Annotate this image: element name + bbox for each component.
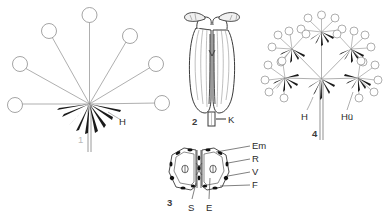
fig4-involucel-lower-left [273, 74, 299, 92]
fig4-umbellet-lower-right [344, 57, 382, 102]
fig1-flower-head [149, 57, 164, 72]
fig2-number: 2 [192, 116, 197, 127]
fig4-number: 4 [312, 128, 318, 139]
fig2-filament [208, 112, 215, 126]
fig3-mericarp-right [202, 148, 229, 190]
fig1-number: 1 [78, 134, 83, 145]
fig1-flower-heads [8, 8, 170, 113]
fig1-flower-head [13, 57, 28, 72]
fig4-umbellet-lower-left [261, 57, 299, 102]
fig3-label-s: S [188, 202, 194, 213]
fig2-theca-right [213, 29, 235, 113]
fig1-flower-head [155, 96, 170, 111]
fig3-commissure [196, 150, 202, 188]
fig1-flower-head [82, 8, 97, 23]
fig1-flower-head [123, 29, 138, 44]
figure-2-anther: K 2 [185, 13, 240, 127]
fig4-leader-h [307, 97, 313, 110]
fig3-label-em: Em [252, 140, 266, 151]
fig1-involucre-bracts [57, 104, 121, 134]
fig3-label-v: V [252, 166, 259, 177]
fig4-involucel-lower-right [344, 74, 371, 92]
fig2-label-k: K [228, 114, 235, 125]
fig4-umbellet-top [297, 11, 346, 46]
figure-3-fruit-section: Em R V F S E 3 [167, 140, 266, 213]
figure-1-simple-umbel: H 1 [8, 8, 170, 153]
botanical-plate: H 1 [0, 0, 390, 222]
fig4-label-h: H [301, 111, 308, 122]
fig3-label-e: E [206, 202, 212, 213]
fig4-umbellet-upper-left [268, 27, 310, 66]
fig3-label-f: F [252, 179, 258, 190]
fig4-umbellet-upper-right [333, 27, 375, 66]
figure-4-compound-umbel: H Hü 4 [261, 11, 382, 140]
fig1-flower-head [8, 98, 23, 113]
fig4-leader-hue [347, 92, 353, 110]
fig2-theca-left [189, 28, 211, 113]
fig3-label-r: R [252, 153, 259, 164]
fig1-flower-head [42, 24, 57, 39]
fig2-apical-appendages [185, 13, 240, 29]
fig1-label-h: H [119, 116, 126, 127]
fig4-involucel-top [310, 32, 334, 46]
fig4-involucre-bracts [308, 79, 335, 100]
fig3-mericarp-left [169, 148, 196, 190]
fig3-number: 3 [167, 197, 172, 208]
fig4-label-hue: Hü [341, 111, 353, 122]
